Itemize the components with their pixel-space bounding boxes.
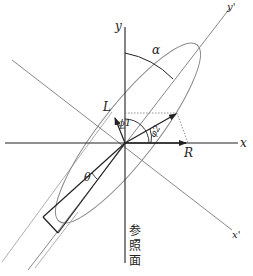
alpha-arc [125,53,173,79]
theta-label: θ [84,171,91,184]
reference-plane-char-1: 参 [129,223,141,238]
reference-plane-char-2: 照 [129,239,141,253]
alpha-label: α [152,43,160,57]
parallel-line-lower [35,212,78,268]
polarization-ellipse [37,28,219,239]
x-prime-label: x' [232,229,240,240]
R-label: R [183,146,193,160]
reference-plane-char-3: 面 [129,254,141,268]
y-axis-label: y [114,19,122,33]
phi1-arc [119,128,125,129]
L-label: L [102,100,111,114]
theta-triangle [43,143,125,233]
y-prime-label: y' [226,1,235,12]
x-axis-label: x [240,136,247,150]
phi1-label: ϕ1 [118,117,131,128]
polarization-ellipse-diagram: y x y' x' α L ϕ1 φ2 R θ 参 照 面 [0,0,253,276]
